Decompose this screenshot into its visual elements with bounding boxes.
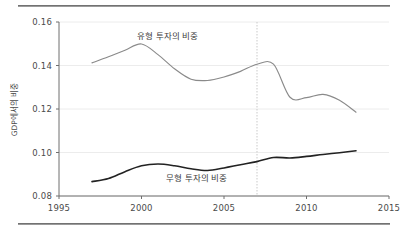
y-axis-label: GDP에서의 비중 bbox=[8, 60, 19, 160]
y-tick-label: 0.16 bbox=[18, 17, 52, 27]
x-tick-label: 2010 bbox=[287, 203, 327, 213]
series-label-tangible: 유형 투자의 비중 bbox=[137, 29, 198, 41]
y-tick-label: 0.08 bbox=[18, 191, 52, 201]
x-tick-label: 2005 bbox=[204, 203, 244, 213]
line-chart-plot bbox=[0, 0, 404, 236]
y-tick-label: 0.10 bbox=[18, 148, 52, 158]
series-line-tangible bbox=[92, 44, 356, 112]
series-paths-group bbox=[92, 44, 356, 182]
x-tick-label: 1995 bbox=[39, 203, 79, 213]
x-tick-label: 2000 bbox=[122, 203, 162, 213]
y-tick-label: 0.14 bbox=[18, 61, 52, 71]
y-tick-label: 0.12 bbox=[18, 104, 52, 114]
gridlines-group bbox=[59, 22, 389, 196]
series-label-intangible: 무형 투자의 비중 bbox=[166, 171, 227, 183]
x-tick-label: 2015 bbox=[369, 203, 404, 213]
chart-figure: GDP에서의 비중 0.160.140.120.100.08 199520002… bbox=[0, 0, 404, 236]
